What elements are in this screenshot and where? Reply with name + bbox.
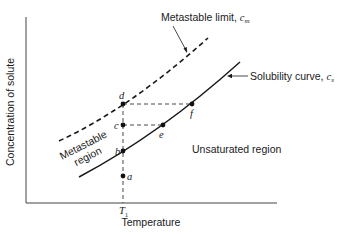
point-c — [121, 123, 126, 128]
construction-lines — [123, 104, 192, 203]
unsaturated-region-label: Unsaturated region — [192, 143, 281, 155]
arrowhead-icon — [227, 74, 232, 78]
arrowhead-icon — [184, 47, 188, 53]
solubility-curve — [79, 62, 240, 177]
metastable-limit-annotation: Metastable limit, cm — [161, 11, 250, 53]
label-e: e — [159, 129, 164, 140]
point-a — [121, 174, 126, 179]
point-e — [161, 123, 166, 128]
point-d — [121, 102, 126, 107]
axes — [26, 17, 277, 203]
phase-diagram: d f c e b a Metastable limit, cm Solubil… — [0, 0, 344, 234]
metastable-limit-curve — [59, 38, 208, 141]
point-f — [190, 102, 195, 107]
y-axis-label: Concentration of solute — [4, 58, 16, 166]
label-f: f — [190, 108, 195, 119]
solubility-curve-label: Solubility curve, cs — [250, 70, 334, 84]
label-b: b — [115, 146, 120, 157]
metastable-limit-label: Metastable limit, cm — [161, 11, 250, 25]
label-d: d — [119, 90, 125, 101]
solubility-curve-annotation: Solubility curve, cs — [227, 70, 334, 84]
label-a: a — [127, 171, 132, 182]
x-axis-label: Temperature — [122, 216, 181, 228]
label-c: c — [114, 120, 119, 131]
points — [121, 102, 195, 179]
point-b — [121, 149, 126, 154]
metastable-region-label: Metastable region — [57, 128, 114, 173]
